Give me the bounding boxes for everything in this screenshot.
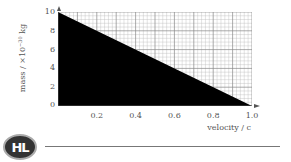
hl-badge-icon: HL (3, 134, 37, 160)
x-tick: 1.0 (246, 111, 259, 120)
answer-line (45, 146, 280, 147)
y-tick: 6 (41, 45, 55, 54)
graph-paper-grid (58, 12, 252, 106)
x-axis-arrow-icon (252, 103, 260, 109)
y-tick: 4 (41, 63, 55, 72)
y-tick: 8 (41, 26, 55, 35)
x-tick: 0.8 (207, 111, 220, 120)
y-axis-label: mass / ×10−30 kg (17, 24, 28, 92)
x-tick: 0.2 (90, 111, 103, 120)
x-tick: 0.6 (168, 111, 181, 120)
x-tick: 0.4 (129, 111, 142, 120)
y-tick: 2 (41, 82, 55, 91)
x-axis-label: velocity / c (207, 123, 251, 132)
y-tick: 0 (41, 100, 55, 109)
y-tick: 10 (41, 7, 55, 16)
y-axis-arrow-icon (56, 6, 62, 14)
